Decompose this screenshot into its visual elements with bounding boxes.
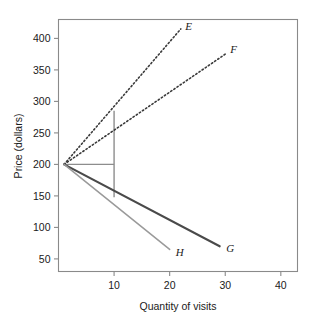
chart-canvas: 50100150200250300350400 10203040 EFGH Qu… <box>0 0 318 327</box>
series-line-h <box>64 164 170 249</box>
series-labels: EFGH <box>175 20 237 258</box>
series-label-g: G <box>226 242 234 254</box>
y-axis-ticks: 50100150200250300350400 <box>33 32 59 265</box>
x-tick-label: 20 <box>164 279 176 291</box>
y-tick-label: 200 <box>33 158 51 170</box>
series-label-h: H <box>175 246 185 258</box>
plot-frame <box>59 20 298 272</box>
x-tick-label: 30 <box>219 279 231 291</box>
y-tick-label: 100 <box>33 221 51 233</box>
x-axis-title: Quantity of visits <box>139 300 216 312</box>
plot-border <box>59 20 298 272</box>
y-tick-label: 150 <box>33 190 51 202</box>
y-tick-label: 50 <box>39 253 51 265</box>
series-label-f: F <box>229 43 237 55</box>
y-tick-label: 250 <box>33 127 51 139</box>
chart-figure: 50100150200250300350400 10203040 EFGH Qu… <box>0 0 318 327</box>
series-line-g <box>64 164 220 246</box>
x-tick-label: 10 <box>108 279 120 291</box>
y-axis-title: Price (dollars) <box>12 114 24 179</box>
y-tick-label: 350 <box>33 64 51 76</box>
series-label-e: E <box>184 20 192 32</box>
series-lines <box>64 29 225 250</box>
y-tick-label: 300 <box>33 95 51 107</box>
x-tick-label: 40 <box>275 279 287 291</box>
series-line-e <box>64 29 181 164</box>
x-axis-ticks: 10203040 <box>108 272 287 291</box>
y-tick-label: 400 <box>33 32 51 44</box>
